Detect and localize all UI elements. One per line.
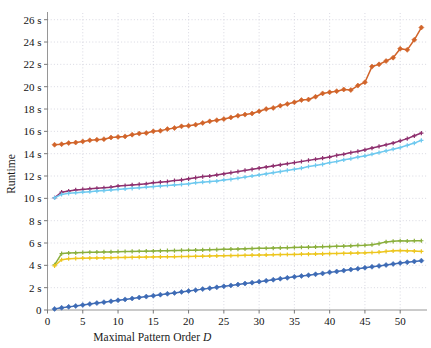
- runtime-line-chart: 02 s4 s6 s8 s10 s12 s14 s16 s18 s20 s22 …: [0, 0, 431, 348]
- x-tick-label: 35: [289, 315, 301, 327]
- chart-background: [0, 0, 431, 348]
- x-axis-title-symbol: D: [202, 331, 212, 343]
- y-tick-label: 0: [36, 304, 42, 316]
- y-tick-label: 20 s: [23, 81, 41, 93]
- x-tick-label: 20: [183, 315, 195, 327]
- chart-svg: 02 s4 s6 s8 s10 s12 s14 s16 s18 s20 s22 …: [0, 0, 431, 348]
- x-tick-label: 10: [113, 315, 125, 327]
- y-tick-label: 26 s: [23, 14, 41, 26]
- x-axis-title-text: Maximal Pattern Order: [93, 331, 200, 343]
- y-tick-label: 18 s: [23, 103, 41, 115]
- y-tick-label: 6 s: [29, 237, 42, 249]
- x-tick-label: 50: [395, 315, 407, 327]
- x-axis-title: Maximal Pattern Order D: [93, 331, 212, 343]
- y-tick-label: 24 s: [23, 36, 41, 48]
- x-tick-label: 15: [148, 315, 160, 327]
- y-tick-label: 8 s: [29, 215, 42, 227]
- x-tick-label: 5: [80, 315, 86, 327]
- x-tick-label: 25: [218, 315, 230, 327]
- y-tick-label: 14 s: [23, 148, 41, 160]
- x-tick-label: 30: [254, 315, 266, 327]
- y-axis-title: Runtime: [5, 154, 17, 194]
- y-tick-label: 2 s: [29, 282, 42, 294]
- x-tick-label: 0: [45, 315, 51, 327]
- y-tick-label: 10 s: [23, 192, 41, 204]
- x-tick-label: 45: [359, 315, 371, 327]
- x-tick-label: 40: [324, 315, 336, 327]
- y-tick-label: 16 s: [23, 125, 41, 137]
- y-tick-label: 22 s: [23, 58, 41, 70]
- y-tick-label: 12 s: [23, 170, 41, 182]
- y-tick-label: 4 s: [29, 259, 42, 271]
